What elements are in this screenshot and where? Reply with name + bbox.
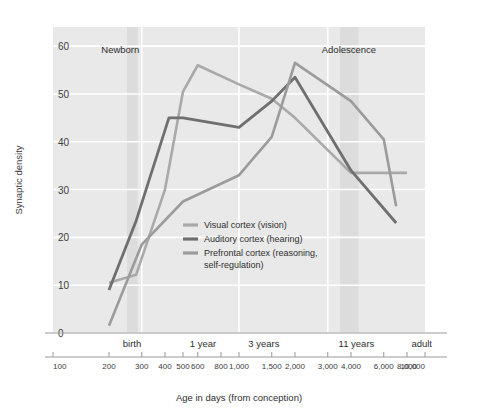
x-category-1-year: 1 year [190,338,216,349]
x-category-adult: adult [411,338,432,349]
x-tick-label-1,000: 1,000 [229,362,250,371]
x-tick-label-4,000: 4,000 [341,362,362,371]
x-tick-label-600: 600 [191,362,205,371]
adolescence-band [340,27,358,333]
legend-label-2-cont: self-regulation) [204,260,264,270]
x-axis-title: Age in days (from conception) [176,392,302,403]
annotation-adolescence: Adolescence [322,44,376,55]
x-axis-log-scale-ruler: 1002003004005006008001,0001,5002,0003,00… [45,352,447,371]
legend-label-1: Auditory cortex (hearing) [204,234,303,244]
x-category-birth: birth [123,338,141,349]
x-tick-label-2,000: 2,000 [285,362,306,371]
y-tick-label-50: 50 [58,89,70,100]
x-tick-label-3,000: 3,000 [318,362,339,371]
y-axis-title: Synaptic density [13,145,24,214]
synaptic-density-line-chart: 0102030405060 NewbornAdolescence birth1 … [0,0,480,410]
x-tick-label-400: 400 [158,362,172,371]
annotation-newborn: Newborn [101,44,139,55]
y-tick-label-40: 40 [58,137,70,148]
y-tick-label-60: 60 [58,41,70,52]
x-tick-label-100: 100 [53,362,67,371]
x-tick-label-10,000: 10,000 [401,362,426,371]
x-tick-label-300: 300 [135,362,149,371]
x-axis-category-labels: birth1 year3 years11 yearsadult [123,338,433,349]
x-tick-label-800: 800 [214,362,228,371]
chart-figure: 0102030405060 NewbornAdolescence birth1 … [0,0,480,410]
legend-label-2: Prefrontal cortex (reasoning, [204,248,318,258]
x-tick-label-500: 500 [176,362,190,371]
birth-band [127,27,138,333]
y-tick-label-10: 10 [58,280,70,291]
y-tick-label-20: 20 [58,232,70,243]
x-category-11-years: 11 years [339,338,375,349]
x-tick-label-1,500: 1,500 [262,362,283,371]
legend-label-0: Visual cortex (vision) [204,220,287,230]
y-tick-label-30: 30 [58,185,70,196]
x-tick-label-200: 200 [102,362,116,371]
x-category-3-years: 3 years [248,338,279,349]
x-tick-label-6,000: 6,000 [374,362,395,371]
